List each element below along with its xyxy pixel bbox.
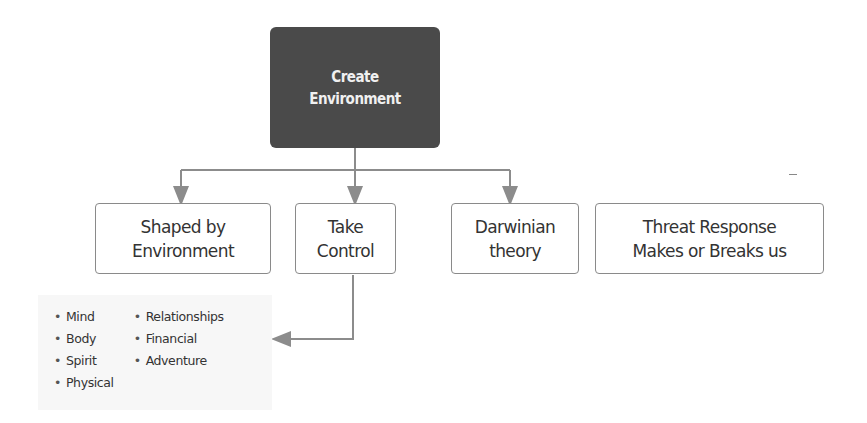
root-line2: Environment xyxy=(309,88,401,110)
list-item: Spirit xyxy=(54,350,114,372)
list-item: Relationships xyxy=(134,306,224,328)
life-areas-list: Mind Body Spirit Physical Relationships … xyxy=(38,295,272,410)
node-shaped-by-environment: Shaped by Environment xyxy=(95,203,271,274)
list-item: Physical xyxy=(54,372,114,394)
node-line2: theory xyxy=(489,239,541,263)
node-line2: Makes or Breaks us xyxy=(633,239,787,263)
list-item: Adventure xyxy=(134,350,224,372)
node-take-control: Take Control xyxy=(295,203,396,274)
stray-mark xyxy=(789,174,797,175)
node-line1: Shaped by xyxy=(141,215,226,239)
list-item: Financial xyxy=(134,328,224,350)
list-item: Body xyxy=(54,328,114,350)
node-line1: Darwinian xyxy=(475,215,555,239)
list-column-2: Relationships Financial Adventure xyxy=(134,306,224,410)
root-node-create-environment: Create Environment xyxy=(270,27,440,148)
node-line2: Environment xyxy=(132,239,234,263)
node-line1: Take xyxy=(328,215,363,239)
list-item: Mind xyxy=(54,306,114,328)
node-line2: Control xyxy=(317,239,374,263)
root-line1: Create xyxy=(331,66,378,88)
node-darwinian-theory: Darwinian theory xyxy=(451,203,579,274)
list-column-1: Mind Body Spirit Physical xyxy=(54,306,114,410)
node-line1: Threat Response xyxy=(643,215,776,239)
node-threat-response: Threat Response Makes or Breaks us xyxy=(595,203,824,274)
